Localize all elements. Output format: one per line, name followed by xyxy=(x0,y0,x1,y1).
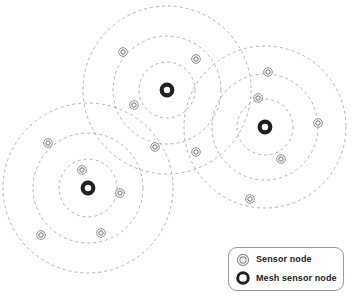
sensor-node xyxy=(264,68,273,77)
legend-item-sensor-node: Sensor node xyxy=(236,252,337,268)
mesh-sensor-node xyxy=(162,85,173,96)
mesh-nodes-layer xyxy=(83,85,271,194)
mesh-sensor-node-ring xyxy=(260,122,271,133)
sensor-node-inner-ring xyxy=(153,145,157,149)
mesh-sensor-node-ring xyxy=(83,183,94,194)
sensor-node-inner-ring xyxy=(80,168,84,172)
legend-label-sensor-node: Sensor node xyxy=(256,255,312,264)
mesh-sensor-node-ring xyxy=(162,85,173,96)
sensor-node xyxy=(246,195,255,204)
sensor-node xyxy=(78,166,87,175)
sensor-node xyxy=(119,48,128,57)
sensor-nodes-cluster-right xyxy=(192,68,323,204)
sensor-node-inner-ring xyxy=(121,50,125,54)
sensor-node-inner-ring xyxy=(279,157,283,161)
sensor-node xyxy=(254,94,263,103)
sensor-node-inner-ring xyxy=(256,96,260,100)
legend-item-mesh-sensor-node: Mesh sensor node xyxy=(236,271,337,287)
sensor-nodes-cluster-left xyxy=(37,139,125,240)
sensor-node-inner-ring xyxy=(316,121,320,125)
sensor-node-inner-ring xyxy=(194,150,198,154)
sensor-node-inner-ring xyxy=(132,103,136,107)
sensor-node-inner-ring xyxy=(99,231,103,235)
figure-canvas: Sensor node Mesh sensor node xyxy=(0,0,352,308)
sensor-node xyxy=(37,231,46,240)
sensor-node xyxy=(192,55,201,64)
sensor-node xyxy=(277,155,286,164)
legend-label-mesh-sensor-node: Mesh sensor node xyxy=(256,274,337,283)
legend: Sensor node Mesh sensor node xyxy=(228,247,344,291)
sensor-node xyxy=(314,119,323,128)
sensor-node-inner-ring xyxy=(248,197,252,201)
sensor-node xyxy=(116,189,125,198)
sensor-nodes-layer xyxy=(37,48,323,240)
sensor-nodes-cluster-top xyxy=(119,48,201,152)
coverage-rings-layer xyxy=(3,6,346,273)
sensor-node-inner-ring xyxy=(194,57,198,61)
mesh-sensor-node-icon xyxy=(236,271,250,285)
mesh-sensor-node xyxy=(83,183,94,194)
sensor-node xyxy=(130,101,139,110)
mesh-sensor-node xyxy=(260,122,271,133)
sensor-node xyxy=(151,143,160,152)
sensor-node xyxy=(192,148,201,157)
sensor-node xyxy=(44,139,53,148)
sensor-node-icon xyxy=(236,253,250,267)
sensor-node-inner-ring xyxy=(46,141,50,145)
sensor-node-inner-ring xyxy=(118,191,122,195)
sensor-node xyxy=(97,229,106,238)
sensor-node-inner-ring xyxy=(39,233,43,237)
sensor-node-inner-ring xyxy=(266,70,270,74)
